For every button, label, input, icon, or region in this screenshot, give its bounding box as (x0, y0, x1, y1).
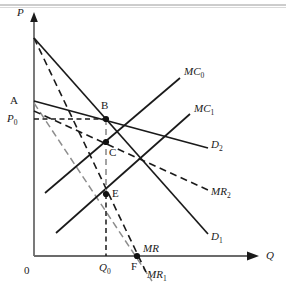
label-curve-d1: D1 (211, 231, 223, 245)
x-axis-arrowhead (247, 252, 259, 261)
point-b-marker (103, 116, 109, 122)
label-point-c: C (109, 147, 116, 158)
economics-diagram-figure: P Q 0 A P0 Q0 B C E F MC0 MC1 D2 MR2 D1 … (0, 0, 286, 294)
curve-d1 (34, 38, 208, 234)
origin-label: 0 (24, 265, 30, 276)
label-curve-d2: D2 (211, 139, 223, 153)
axis-group (30, 12, 259, 260)
y-axis-label: P (17, 7, 24, 18)
label-point-b: B (101, 100, 108, 111)
y-axis-arrowhead (30, 12, 38, 22)
label-point-e: E (112, 188, 119, 199)
x-axis-label: Q (266, 250, 274, 261)
curve-d2 (34, 101, 208, 148)
point-c-marker (103, 139, 109, 145)
label-p0: P0 (7, 113, 17, 127)
label-curve-mr1: MR1 (147, 269, 167, 283)
label-curve-mc0: MC0 (184, 66, 204, 80)
label-point-a: A (10, 95, 18, 106)
point-e-marker (103, 191, 109, 197)
label-curve-mc1: MC1 (194, 103, 214, 117)
label-curve-mr: MR (143, 243, 159, 254)
label-curve-mr2: MR2 (211, 186, 231, 200)
point-f-marker (134, 253, 140, 259)
curve-mr2 (34, 111, 208, 190)
label-point-f: F (131, 261, 137, 272)
curve-mr-grey (34, 103, 152, 281)
label-q0: Q0 (99, 262, 111, 276)
